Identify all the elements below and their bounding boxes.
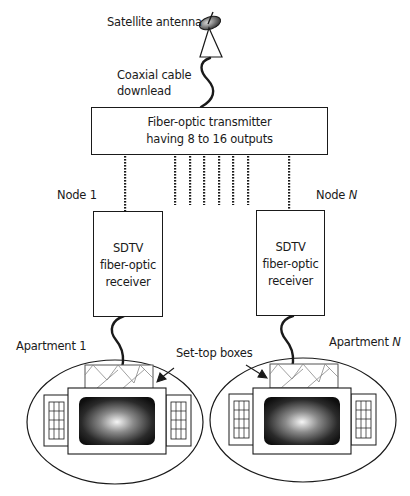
receiver-n-line2: fiber-optic	[257, 256, 324, 273]
coaxial-downlead-label: downlead	[117, 84, 171, 99]
transmitter-line2: having 8 to 16 outputs	[92, 131, 327, 148]
receiver-n-line3: receiver	[257, 273, 324, 290]
node-n-receiver-box: SDTV fiber-optic receiver	[256, 210, 325, 316]
set-top-arrows-icon	[157, 365, 267, 382]
satellite-antenna-label: Satellite antenna	[107, 15, 202, 30]
coaxial-cable-label: Coaxial cable	[117, 68, 191, 83]
node-1-receiver-box: SDTV fiber-optic receiver	[93, 211, 163, 317]
tv-screen-1	[79, 397, 155, 445]
node-1-label: Node 1	[57, 188, 97, 203]
transmitter-line1: Fiber-optic transmitter	[92, 114, 327, 131]
apartment-1-graphic	[27, 360, 203, 484]
set-top-box-1	[85, 365, 153, 389]
coaxial-cable-icon	[201, 58, 213, 107]
apartment-1-label: Apartment 1	[16, 339, 86, 354]
tv-screen-n	[264, 397, 340, 445]
receiver-1-line3: receiver	[94, 274, 162, 291]
receiver-1-line1: SDTV	[94, 240, 162, 257]
receiver-1-line2: fiber-optic	[94, 257, 162, 274]
apartment-n-label: Apartment N	[329, 335, 401, 350]
receiver-n-line1: SDTV	[257, 239, 324, 256]
set-top-box-n	[270, 364, 338, 388]
node-n-label: Node N	[316, 188, 357, 203]
apartment-n-graphic	[210, 358, 396, 482]
cable-tv-distribution-diagram: Satellite antenna Coaxial cable downlead…	[0, 0, 410, 496]
set-top-boxes-label: Set-top boxes	[176, 346, 252, 361]
diagram-graphics	[0, 0, 410, 496]
fiber-optic-lines	[124, 155, 290, 212]
fiber-optic-transmitter-box: Fiber-optic transmitter having 8 to 16 o…	[91, 107, 328, 155]
